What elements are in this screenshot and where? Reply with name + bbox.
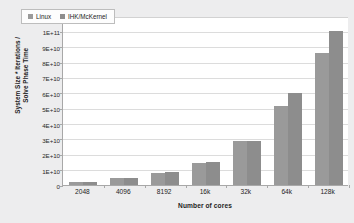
- bar: [233, 141, 247, 185]
- plot-area: [62, 17, 348, 186]
- bar: [247, 141, 261, 185]
- chart-legend: LinuxIHK/McKernel: [21, 9, 115, 24]
- bar: [69, 182, 83, 185]
- x-axis-tick-labels: 20484096819216k32k64k128k: [62, 188, 348, 200]
- y-tick-label: 8E+10: [42, 60, 60, 67]
- bar: [329, 31, 343, 185]
- bar-series-container: [63, 17, 348, 185]
- y-tick-label: 4E+10: [42, 121, 60, 128]
- y-tick-label: 3E+10: [42, 136, 60, 143]
- x-tick-label: 4096: [116, 188, 131, 195]
- y-tick-label: 9E+10: [42, 44, 60, 51]
- bar: [192, 163, 206, 185]
- bar: [274, 106, 288, 185]
- x-tick-label: 16k: [200, 188, 211, 195]
- y-axis-tick-labels: 01E+102E+103E+104E+105E+106E+107E+108E+1…: [18, 17, 60, 186]
- bar: [165, 172, 179, 185]
- x-tick-mark: [349, 185, 350, 188]
- x-axis-title: Number of cores: [62, 202, 348, 209]
- bar: [151, 173, 165, 185]
- x-tick-label: 2048: [75, 188, 90, 195]
- bar: [206, 162, 220, 185]
- bar-group: [104, 17, 145, 185]
- legend-swatch-icon: [60, 14, 65, 19]
- y-tick-label: 7E+10: [42, 75, 60, 82]
- bar: [124, 178, 138, 185]
- bar: [315, 53, 329, 185]
- bar: [110, 178, 124, 185]
- bar-group: [63, 17, 104, 185]
- legend-label: Linux: [36, 13, 51, 20]
- y-tick-label: 1E+10: [42, 167, 60, 174]
- y-tick-label: 5E+10: [42, 106, 60, 113]
- bar: [83, 182, 97, 185]
- legend-entry: IHK/McKernel: [60, 13, 107, 20]
- legend-entry: Linux: [28, 13, 51, 20]
- y-tick-label: 6E+10: [42, 90, 60, 97]
- legend-label: IHK/McKernel: [68, 13, 107, 20]
- x-tick-label: 8192: [157, 188, 172, 195]
- y-tick-label: 2E+10: [42, 152, 60, 159]
- bar-group: [267, 17, 308, 185]
- bar-group: [308, 17, 349, 185]
- bar-group: [145, 17, 186, 185]
- legend-swatch-icon: [28, 14, 33, 19]
- bar-group: [226, 17, 267, 185]
- x-tick-label: 64k: [281, 188, 292, 195]
- chart-figure: System Size * Iterations / Solve Phase T…: [0, 0, 354, 223]
- y-tick-label: 1E+11: [43, 29, 60, 36]
- x-tick-label: 128k: [320, 188, 334, 195]
- x-tick-label: 32k: [241, 188, 252, 195]
- y-tick-mark: [60, 186, 63, 187]
- bar-group: [186, 17, 227, 185]
- bar: [288, 93, 302, 185]
